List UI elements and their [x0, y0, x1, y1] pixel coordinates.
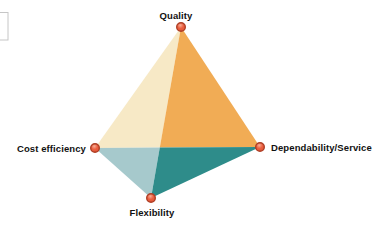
vertex-dot-flexibility — [147, 194, 156, 203]
vertex-dot-cost-efficiency — [91, 144, 100, 153]
axis-label-dependability: Dependability/Service — [271, 142, 372, 153]
cropped-ui-box — [0, 13, 8, 41]
axis-label-flexibility: Flexibility — [130, 207, 176, 218]
figure-stage: Quality Dependability/Service Flexibilit… — [0, 0, 382, 227]
radar-region-lower-right-face — [151, 147, 260, 198]
vertex-dot-quality — [177, 23, 186, 32]
axis-label-cost-efficiency: Cost efficiency — [17, 143, 87, 154]
radar-region-lower-left-face — [95, 148, 160, 198]
radar-figure: Quality Dependability/Service Flexibilit… — [0, 0, 382, 227]
axis-label-quality: Quality — [160, 10, 194, 21]
vertex-dot-dependability — [256, 143, 265, 152]
